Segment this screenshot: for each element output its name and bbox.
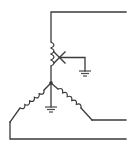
left-winding-coil: [10, 83, 51, 122]
top-line: [51, 12, 126, 42]
upper-ground-wire: [60, 58, 85, 72]
neutral-ground-icon: [45, 107, 57, 112]
wye-winding-diagram: [0, 0, 134, 148]
bottom-line: [10, 122, 126, 139]
upper-winding-coil: [51, 42, 54, 66]
right-winding-coil: [51, 83, 92, 120]
upper-ground-icon: [79, 71, 91, 76]
